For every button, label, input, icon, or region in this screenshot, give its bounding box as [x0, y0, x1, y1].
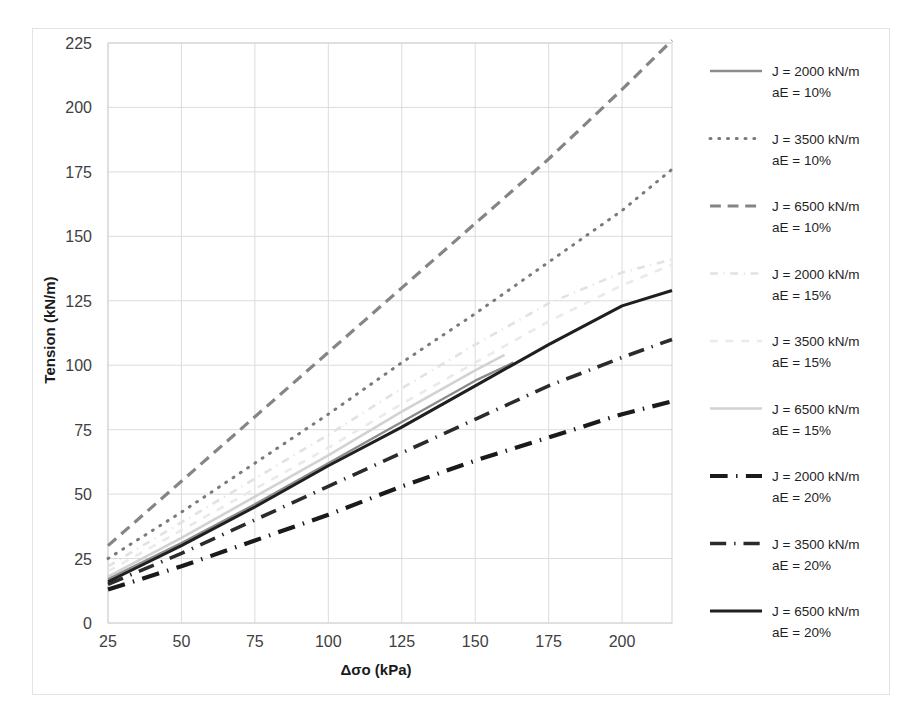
x-axis-tick-labels: 255075100125150175200 [99, 633, 635, 650]
legend-label-line1: J = 2000 kN/m [772, 267, 859, 282]
x-tick-label: 75 [246, 633, 264, 650]
chart-legend: J = 2000 kN/maE = 10%J = 3500 kN/maE = 1… [710, 64, 859, 640]
series-lines-group [108, 40, 672, 589]
legend-label-line1: J = 6500 kN/m [772, 402, 859, 417]
y-tick-label: 175 [65, 164, 92, 181]
legend-label-line1: J = 3500 kN/m [772, 537, 859, 552]
y-tick-label: 25 [74, 551, 92, 568]
series-line [108, 339, 672, 584]
x-tick-label: 125 [388, 633, 415, 650]
legend-label-line2: aE = 20% [772, 490, 831, 505]
x-tick-label: 200 [609, 633, 636, 650]
legend-label-line1: J = 6500 kN/m [772, 199, 859, 214]
legend-label-line2: aE = 15% [772, 355, 831, 370]
y-axis-title: Tension (kN/m) [41, 276, 58, 383]
chart-figure: 255075100125150175200 025507510012515017… [0, 0, 912, 728]
legend-label-line2: aE = 20% [772, 625, 831, 640]
y-tick-label: 225 [65, 35, 92, 52]
legend-label-line2: aE = 20% [772, 558, 831, 573]
legend-label-line2: aE = 15% [772, 288, 831, 303]
y-tick-label: 125 [65, 293, 92, 310]
legend-label-line1: J = 2000 kN/m [772, 469, 859, 484]
legend-label-line1: J = 3500 kN/m [772, 334, 859, 349]
y-tick-label: 0 [83, 615, 92, 632]
legend-label-line2: aE = 15% [772, 423, 831, 438]
x-tick-label: 175 [535, 633, 562, 650]
legend-label-line2: aE = 10% [772, 153, 831, 168]
legend-label-line2: aE = 10% [772, 220, 831, 235]
legend-label-line1: J = 3500 kN/m [772, 132, 859, 147]
series-line [108, 355, 505, 577]
y-tick-label: 200 [65, 99, 92, 116]
y-tick-label: 100 [65, 357, 92, 374]
chart-canvas: 255075100125150175200 025507510012515017… [0, 0, 912, 728]
x-tick-label: 25 [99, 633, 117, 650]
x-tick-label: 100 [315, 633, 342, 650]
x-tick-label: 50 [173, 633, 191, 650]
y-axis-tick-labels: 0255075100125150175200225 [65, 35, 92, 632]
x-axis-title: Δσo (kPa) [340, 661, 411, 678]
legend-label-line1: J = 2000 kN/m [772, 64, 859, 79]
x-tick-label: 150 [462, 633, 489, 650]
series-line [108, 363, 513, 580]
series-line [108, 260, 672, 567]
y-tick-label: 50 [74, 486, 92, 503]
y-tick-label: 150 [65, 228, 92, 245]
legend-label-line2: aE = 10% [772, 85, 831, 100]
series-line [108, 40, 672, 545]
series-line [108, 169, 672, 558]
y-tick-label: 75 [74, 422, 92, 439]
legend-label-line1: J = 6500 kN/m [772, 604, 859, 619]
